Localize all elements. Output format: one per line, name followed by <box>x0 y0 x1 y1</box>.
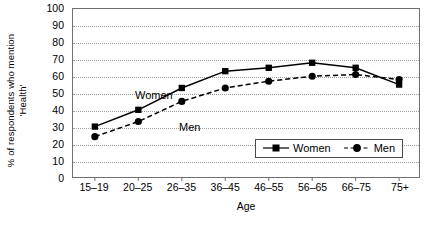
legend: Women Men <box>255 139 403 158</box>
data-point-men-2 <box>178 98 185 105</box>
data-point-men-0 <box>91 133 98 140</box>
chart-figure: % of respondents who mention 'Health' 01… <box>0 0 430 243</box>
y-tick-label: 20 <box>52 139 64 150</box>
data-point-men-4 <box>265 78 272 85</box>
data-point-men-7 <box>396 76 403 83</box>
legend-entry-women: Women <box>263 142 331 154</box>
x-tick-label: 66–75 <box>342 181 371 193</box>
data-point-women-5 <box>309 60 315 66</box>
legend-swatch-women-icon <box>263 142 289 154</box>
plot-area: Women Men Women Men <box>72 8 420 178</box>
data-point-men-6 <box>352 71 359 78</box>
y-tick-label: 0 <box>58 173 64 184</box>
y-axis-title: % of respondents who mention 'Health' <box>0 0 34 200</box>
x-tick-label: 20–25 <box>123 181 152 193</box>
y-tick-label: 10 <box>52 156 64 167</box>
data-point-women-1 <box>135 107 141 113</box>
y-axis-tick-labels: 0102030405060708090100 <box>34 8 68 178</box>
y-tick-label: 50 <box>52 88 64 99</box>
series-line-men <box>95 75 399 137</box>
data-point-women-0 <box>92 123 98 129</box>
y-tick-label: 80 <box>52 37 64 48</box>
y-axis-title-line1: % of respondents who mention <box>6 33 17 166</box>
data-point-women-2 <box>179 85 185 91</box>
legend-label-men: Men <box>374 142 395 154</box>
data-point-men-5 <box>309 73 316 80</box>
y-axis-title-line2: 'Health' <box>17 33 29 166</box>
y-tick-label: 70 <box>52 54 64 65</box>
data-point-women-4 <box>266 65 272 71</box>
x-tick-label: 75+ <box>391 181 409 193</box>
data-point-women-3 <box>222 68 228 74</box>
x-axis-tick-labels: 15–1920–2526–3536–4546–5556–6566–7575+ <box>72 181 420 197</box>
data-point-women-6 <box>352 65 358 71</box>
plot-inner: Women Men Women Men <box>73 9 419 177</box>
y-tick-label: 60 <box>52 71 64 82</box>
x-tick-label: 46–55 <box>254 181 283 193</box>
annotation-men: Men <box>179 121 200 133</box>
y-tick-label: 100 <box>46 3 64 14</box>
data-point-men-1 <box>135 118 142 125</box>
x-axis-title: Age <box>72 200 420 212</box>
x-tick-label: 26–35 <box>167 181 196 193</box>
x-tick-label: 56–65 <box>298 181 327 193</box>
legend-label-women: Women <box>293 142 331 154</box>
y-tick-label: 40 <box>52 105 64 116</box>
y-tick-label: 30 <box>52 122 64 133</box>
x-tick-label: 15–19 <box>79 181 108 193</box>
x-tick-label: 36–45 <box>211 181 240 193</box>
annotation-women: Women <box>135 89 173 101</box>
legend-swatch-men-icon <box>344 142 370 154</box>
y-tick-label: 90 <box>52 20 64 31</box>
data-point-men-3 <box>222 84 229 91</box>
legend-entry-men: Men <box>344 142 395 154</box>
